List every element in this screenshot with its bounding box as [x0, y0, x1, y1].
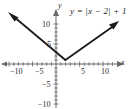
- x-tick-label-10: 10: [101, 68, 109, 76]
- x-tick-label-5: 5: [81, 68, 85, 76]
- y-tick-label-5: 5: [47, 41, 51, 49]
- equation-annotation: y = |x − 2| + 1: [70, 7, 127, 16]
- y-axis-label: y: [58, 2, 62, 10]
- x-tick-label-neg5: −5: [35, 68, 44, 76]
- x-tick-label-neg10: −10: [10, 68, 23, 76]
- absolute-value-graph-figure: −10 −5 5 10 10 5 −5 −10 x y y = |x − 2| …: [0, 0, 130, 109]
- y-tick-label-10: 10: [42, 21, 50, 29]
- y-tick-label-neg10: −10: [38, 101, 51, 109]
- x-axis-label: x: [121, 59, 125, 67]
- coordinate-plane-svg: [0, 0, 130, 109]
- y-axis-arrowhead-top: [53, 9, 59, 16]
- x-axis-arrowhead-left: [1, 62, 7, 67]
- absolute-value-curve: [8, 12, 119, 60]
- y-tick-label-neg5: −5: [42, 81, 51, 89]
